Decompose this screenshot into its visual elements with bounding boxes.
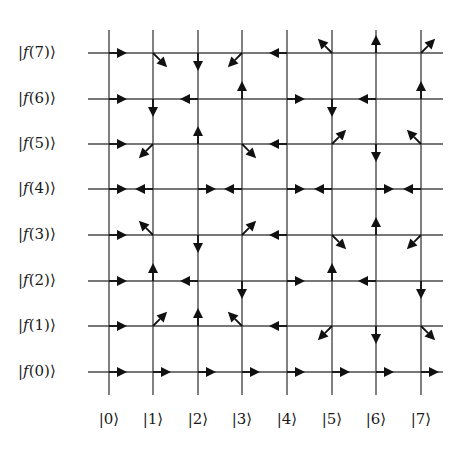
row-label-part: ⟩ — [50, 89, 56, 107]
arrow-icon — [269, 230, 287, 240]
arrow-icon — [135, 184, 153, 194]
arrow-icon — [287, 367, 305, 377]
arrow-icon — [242, 221, 256, 235]
arrow-icon — [327, 99, 337, 117]
column-label-2: |2⟩ — [178, 410, 218, 428]
row-label-f4: |f(4)⟩ — [18, 179, 88, 197]
arrow-icon — [109, 48, 127, 58]
row-label-part: ⟩ — [50, 271, 56, 289]
arrow-icon — [287, 276, 305, 286]
arrow-icon — [180, 94, 198, 104]
arrow-icon — [269, 321, 287, 331]
arrow-icon — [269, 139, 287, 149]
row-label-part: ⟩ — [50, 43, 56, 61]
arrow-icon — [407, 235, 421, 249]
arrow-icon — [416, 81, 426, 99]
arrow-icon — [228, 312, 242, 326]
arrow-icon — [318, 326, 332, 340]
arrow-icon — [153, 312, 167, 326]
column-label-4: |4⟩ — [267, 410, 307, 428]
arrow-icon — [148, 263, 158, 281]
column-label-5: |5⟩ — [312, 410, 352, 428]
arrow-icon — [318, 39, 332, 53]
arrow-icon — [109, 367, 127, 377]
arrow-icon — [371, 326, 381, 344]
arrow-icon — [148, 99, 158, 117]
arrow-icon — [358, 94, 376, 104]
row-label-part: ⟩ — [50, 179, 56, 197]
arrow-icon — [403, 184, 421, 194]
row-label-part: (7) — [29, 43, 50, 61]
arrow-icon — [421, 367, 439, 377]
arrow-icon — [416, 281, 426, 299]
arrow-icon — [269, 48, 287, 58]
arrow-icon — [327, 263, 337, 281]
arrow-icon — [314, 184, 332, 194]
arrow-icon — [228, 53, 242, 67]
arrow-icon — [421, 326, 435, 340]
arrow-icon — [358, 276, 376, 286]
row-label-f5: |f(5)⟩ — [18, 134, 88, 152]
row-label-part: (2) — [29, 271, 50, 289]
row-label-part: ⟩ — [50, 316, 56, 334]
arrow-icon — [109, 276, 127, 286]
column-label-1: |1⟩ — [133, 410, 173, 428]
row-label-f0: |f(0)⟩ — [18, 362, 88, 380]
arrow-icon — [193, 235, 203, 253]
arrow-icon — [332, 235, 346, 249]
arrow-icon — [193, 53, 203, 71]
row-label-part: ⟩ — [50, 362, 56, 380]
column-label-7: |7⟩ — [401, 410, 441, 428]
arrow-icon — [198, 367, 216, 377]
arrow-icon — [198, 184, 216, 194]
row-label-part: (1) — [29, 316, 50, 334]
arrow-icon — [139, 221, 153, 235]
arrow-icon — [109, 230, 127, 240]
arrow-icon — [193, 308, 203, 326]
arrow-icon — [109, 321, 127, 331]
arrow-icon — [371, 144, 381, 162]
arrow-icon — [109, 139, 127, 149]
arrow-icon — [376, 184, 394, 194]
arrow-icon — [332, 130, 346, 144]
row-label-f7: |f(7)⟩ — [18, 43, 88, 61]
arrow-icon — [224, 184, 242, 194]
arrow-icon — [237, 81, 247, 99]
arrow-icon — [407, 130, 421, 144]
column-label-3: |3⟩ — [222, 410, 262, 428]
arrow-icon — [109, 184, 127, 194]
row-label-f6: |f(6)⟩ — [18, 89, 88, 107]
arrow-icon — [287, 94, 305, 104]
row-label-part: ⟩ — [50, 225, 56, 243]
row-label-part: (5) — [29, 134, 50, 152]
arrow-icon — [180, 276, 198, 286]
arrow-icon — [421, 39, 435, 53]
column-label-0: |0⟩ — [89, 410, 129, 428]
arrow-icon — [376, 367, 394, 377]
column-label-6: |6⟩ — [356, 410, 396, 428]
arrow-icon — [139, 144, 153, 158]
row-label-f2: |f(2)⟩ — [18, 271, 88, 289]
arrow-icon — [153, 367, 171, 377]
arrow-icon — [287, 184, 305, 194]
row-label-f3: |f(3)⟩ — [18, 225, 88, 243]
arrow-icon — [371, 35, 381, 53]
row-label-part: (0) — [29, 362, 50, 380]
arrow-icon — [332, 367, 350, 377]
arrow-icon — [193, 126, 203, 144]
row-label-part: ⟩ — [50, 134, 56, 152]
arrow-icon — [153, 53, 167, 67]
row-label-part: (4) — [29, 179, 50, 197]
row-label-part: (6) — [29, 89, 50, 107]
arrow-icon — [109, 94, 127, 104]
row-label-part: (3) — [29, 225, 50, 243]
arrow-icon — [371, 217, 381, 235]
row-label-f1: |f(1)⟩ — [18, 316, 88, 334]
grid-lines — [88, 30, 443, 395]
arrow-icon — [237, 281, 247, 299]
arrow-icon — [242, 367, 260, 377]
arrow-icon — [242, 144, 256, 158]
